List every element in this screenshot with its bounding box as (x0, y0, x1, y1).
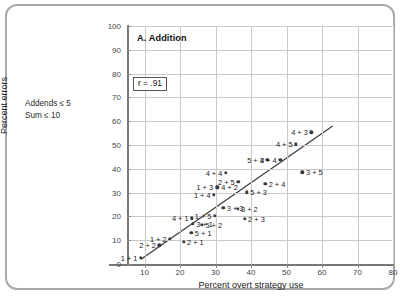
y-tick-label: 60 (99, 117, 121, 126)
gridline-horizontal (128, 74, 392, 75)
x-tick-mark (180, 264, 181, 268)
y-tick-label: 100 (99, 22, 121, 31)
gridline-vertical (393, 26, 394, 264)
y-tick-mark (127, 97, 131, 98)
data-point-label: 5 + 1 (195, 229, 212, 238)
y-tick-label: 30 (99, 188, 121, 197)
data-point-label: 5 + 2 (206, 220, 223, 229)
x-tick-label: 30 (204, 268, 228, 277)
y-tick-mark (127, 145, 131, 146)
data-point-label: 5 + 3 (250, 188, 267, 197)
data-point-label: 1 + 5 (195, 211, 212, 220)
y-tick-mark (127, 50, 131, 51)
gridline-horizontal (128, 169, 392, 170)
data-point-label: 3 + 5 (306, 168, 323, 177)
data-point-label: 4 + 3 (291, 128, 308, 137)
y-tick-mark (127, 74, 131, 75)
x-tick-mark (216, 264, 217, 268)
x-tick-mark (287, 264, 288, 268)
x-tick-label: 60 (310, 268, 334, 277)
plot-area (128, 26, 392, 264)
data-point-label: 4 + 4 (206, 168, 223, 177)
gridline-horizontal (128, 121, 392, 122)
figure-card: Addends ≤ 5 Sum ≤ 10 A. Addition r = .91… (5, 4, 395, 290)
gridline-horizontal (128, 240, 392, 241)
x-tick-mark (251, 264, 252, 268)
y-axis-title: Percent errors (0, 77, 9, 134)
x-tick-label: 20 (168, 268, 192, 277)
data-point-label: 1 + 2 (150, 235, 167, 244)
x-tick-label: 70 (346, 268, 370, 277)
x-tick-mark (322, 264, 323, 268)
gridline-horizontal (128, 26, 392, 27)
panel-title: A. Addition (137, 33, 187, 43)
y-tick-label: 50 (99, 141, 121, 150)
data-point-label: 2 + 5 (218, 177, 235, 186)
data-point-label: 1 + 3 (196, 183, 213, 192)
data-point-label: 2 + 4 (269, 179, 286, 188)
y-tick-label: 20 (99, 212, 121, 221)
data-point-label: 3 + 4 (260, 155, 277, 164)
data-point-label: 4 + 1 (172, 214, 189, 223)
data-point-label: 4 + 5 (276, 140, 293, 149)
y-tick-label: 0 (99, 260, 121, 269)
y-tick-label: 70 (99, 93, 121, 102)
y-tick-label: 40 (99, 164, 121, 173)
side-annotation-line-2: Sum ≤ 10 (25, 110, 105, 122)
gridline-horizontal (128, 145, 392, 146)
x-tick-mark (358, 264, 359, 268)
data-point-label: 3 + 2 (241, 204, 258, 213)
data-point-label: 2 + 1 (187, 237, 204, 246)
data-point-label: 2 + 3 (248, 214, 265, 223)
y-tick-mark (127, 193, 131, 194)
gridline-horizontal (128, 50, 392, 51)
y-tick-label: 90 (99, 45, 121, 54)
x-tick-label: 50 (275, 268, 299, 277)
y-tick-mark (127, 121, 131, 122)
x-tick-label: 10 (133, 268, 157, 277)
x-axis-title: Percent overt strategy use (109, 280, 393, 290)
gridline-horizontal (128, 97, 392, 98)
x-tick-mark (145, 264, 146, 268)
x-tick-label: 40 (239, 268, 263, 277)
y-tick-label: 10 (99, 236, 121, 245)
data-point-label: 1 + 1 (121, 254, 138, 263)
y-tick-mark (127, 264, 131, 265)
x-tick-mark (393, 264, 394, 268)
y-tick-label: 80 (99, 69, 121, 78)
side-annotation-line-1: Addends ≤ 5 (25, 98, 105, 110)
x-tick-label: 80 (381, 268, 400, 277)
y-tick-mark (127, 26, 131, 27)
correlation-annotation: r = .91 (133, 77, 167, 91)
y-tick-mark (127, 216, 131, 217)
y-tick-mark (127, 169, 131, 170)
side-annotation: Addends ≤ 5 Sum ≤ 10 (25, 98, 105, 122)
y-tick-mark (127, 240, 131, 241)
